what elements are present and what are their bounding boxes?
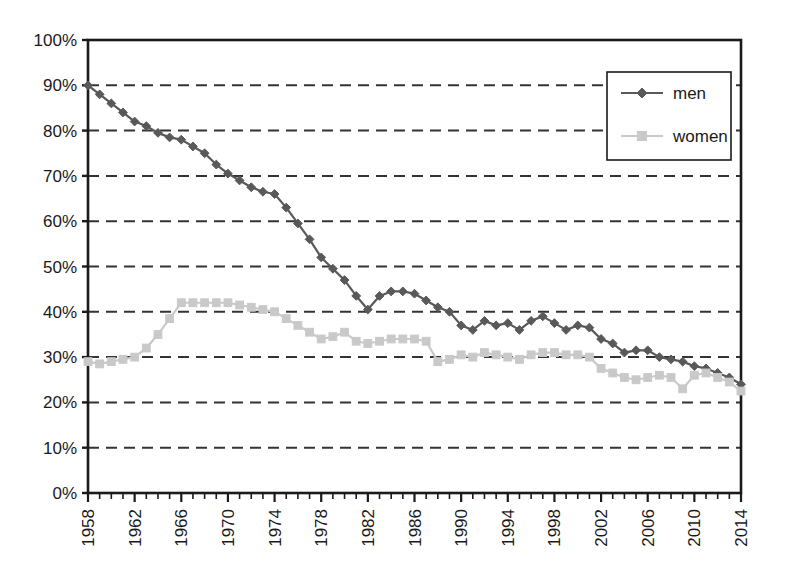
x-axis-ticks [88, 493, 741, 502]
data-point-marker [492, 321, 501, 330]
x-tick-label: 1994 [499, 509, 518, 547]
x-tick-label: 1970 [219, 509, 238, 547]
x-tick-label: 1978 [312, 509, 331, 547]
data-point-marker [411, 335, 419, 343]
chart-legend: menwomen [607, 72, 731, 160]
data-point-marker [422, 296, 431, 305]
legend-label-women: women [672, 127, 728, 146]
data-point-marker [632, 346, 641, 355]
data-point-marker [433, 303, 442, 312]
data-point-marker [119, 355, 127, 363]
y-tick-label: 10% [43, 439, 77, 458]
x-tick-label: 1998 [545, 509, 564, 547]
x-axis-tick-labels: 1958196219661970197419781982198619901994… [79, 509, 751, 547]
data-point-marker [317, 335, 325, 343]
data-point-marker [399, 335, 407, 343]
y-tick-label: 100% [34, 31, 77, 50]
data-point-marker [562, 326, 571, 335]
x-tick-label: 1990 [452, 509, 471, 547]
y-tick-label: 60% [43, 212, 77, 231]
x-tick-label: 1958 [79, 509, 98, 547]
y-tick-label: 80% [43, 122, 77, 141]
y-tick-label: 20% [43, 393, 77, 412]
data-point-marker [201, 299, 209, 307]
data-point-marker [352, 337, 360, 345]
legend-marker-women [637, 131, 646, 140]
data-point-marker [737, 387, 745, 395]
data-point-marker [714, 374, 722, 382]
data-point-marker [678, 357, 687, 366]
x-tick-label: 1986 [406, 509, 425, 547]
data-point-marker [259, 306, 267, 314]
series-women [84, 299, 745, 395]
data-point-marker [492, 351, 500, 359]
data-point-marker [574, 351, 582, 359]
data-point-marker [597, 365, 605, 373]
data-point-marker [620, 374, 628, 382]
data-point-marker [446, 355, 454, 363]
data-point-marker [667, 374, 675, 382]
data-point-marker [154, 331, 162, 339]
data-point-marker [235, 176, 244, 185]
data-point-marker [690, 371, 698, 379]
data-point-marker [189, 142, 198, 151]
data-point-marker [189, 299, 197, 307]
data-point-marker [550, 319, 559, 328]
data-point-marker [609, 369, 617, 377]
data-point-marker [562, 351, 570, 359]
data-point-marker [679, 385, 687, 393]
data-point-marker [690, 362, 699, 371]
data-point-marker [341, 328, 349, 336]
data-point-marker [247, 303, 255, 311]
data-point-marker [306, 328, 314, 336]
x-tick-label: 1962 [126, 509, 145, 547]
data-point-marker [142, 344, 150, 352]
data-point-marker [177, 135, 186, 144]
data-point-marker [504, 353, 512, 361]
data-point-marker [725, 378, 733, 386]
data-point-marker [376, 337, 384, 345]
legend-label-men: men [673, 84, 706, 103]
x-tick-label: 1974 [266, 509, 285, 547]
x-tick-label: 2010 [685, 509, 704, 547]
data-point-marker [329, 333, 337, 341]
data-point-marker [503, 319, 512, 328]
y-tick-label: 0% [52, 484, 77, 503]
data-point-marker [247, 183, 256, 192]
data-point-marker [539, 349, 547, 357]
line-chart: 100%90%80%70%60%50%40%30%20%10%0% 195819… [0, 0, 788, 562]
y-tick-label: 50% [43, 258, 77, 277]
data-point-marker [398, 287, 407, 296]
x-tick-label: 1982 [359, 509, 378, 547]
data-point-marker [644, 374, 652, 382]
data-point-marker [702, 369, 710, 377]
chart-container: 100%90%80%70%60%50%40%30%20%10%0% 195819… [0, 0, 788, 562]
data-point-marker [655, 353, 664, 362]
x-tick-label: 1966 [172, 509, 191, 547]
data-point-marker [236, 301, 244, 309]
x-tick-label: 2014 [732, 509, 751, 547]
data-point-marker [131, 353, 139, 361]
data-point-marker [527, 351, 535, 359]
y-tick-label: 70% [43, 167, 77, 186]
data-point-marker [481, 349, 489, 357]
y-tick-label: 90% [43, 76, 77, 95]
data-point-marker [166, 315, 174, 323]
data-point-marker [177, 299, 185, 307]
data-point-marker [457, 351, 465, 359]
legend-box [607, 72, 731, 160]
data-point-marker [573, 321, 582, 330]
data-point-marker [294, 321, 302, 329]
x-tick-label: 2006 [639, 509, 658, 547]
data-point-marker [387, 335, 395, 343]
data-point-marker [643, 346, 652, 355]
data-point-marker [387, 287, 396, 296]
x-tick-label: 2002 [592, 509, 611, 547]
data-point-marker [586, 353, 594, 361]
data-point-marker [282, 315, 290, 323]
data-point-marker [271, 308, 279, 316]
data-point-marker [538, 312, 547, 321]
y-tick-label: 30% [43, 348, 77, 367]
y-tick-label: 40% [43, 303, 77, 322]
data-point-marker [259, 187, 268, 196]
